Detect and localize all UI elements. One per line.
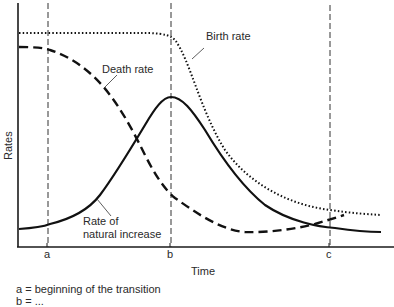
tick-b-label: b <box>167 248 173 260</box>
x-axis-title: Time <box>191 265 215 277</box>
footnote-b: b = ... <box>16 295 44 307</box>
y-axis-title: Rates <box>2 131 14 160</box>
death-rate-leader <box>104 75 117 88</box>
footnote-a: a = beginning of the transition <box>16 283 161 295</box>
birth-rate-leader <box>192 48 204 59</box>
death-rate-label: Death rate <box>102 63 153 75</box>
natural-increase-line <box>19 97 381 232</box>
death-rate-line <box>19 47 344 232</box>
birth-rate-label: Birth rate <box>206 30 251 42</box>
natural-increase-label-line2: natural increase <box>83 228 161 240</box>
natural-increase-label-line1: Rate of <box>83 215 119 227</box>
tick-c-label: c <box>326 248 332 260</box>
tick-a-label: a <box>44 248 51 260</box>
natural-increase-leader <box>97 199 111 216</box>
